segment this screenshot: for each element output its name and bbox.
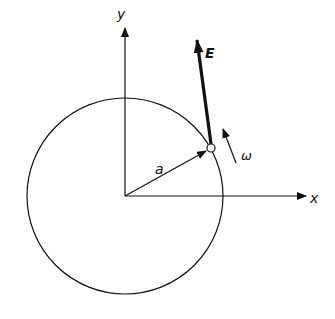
omega-label: ω	[241, 148, 252, 163]
diagram-canvas: y x E a ω	[0, 0, 335, 319]
rotating-field-diagram: y x E a ω	[0, 0, 335, 319]
x-axis-label: x	[309, 190, 319, 206]
rotation-arrow-icon	[223, 129, 236, 163]
radius-vector	[125, 151, 206, 196]
radius-label: a	[155, 161, 164, 177]
charge-point	[207, 144, 215, 152]
field-label-e: E	[205, 45, 215, 61]
y-axis-label: y	[116, 6, 126, 22]
